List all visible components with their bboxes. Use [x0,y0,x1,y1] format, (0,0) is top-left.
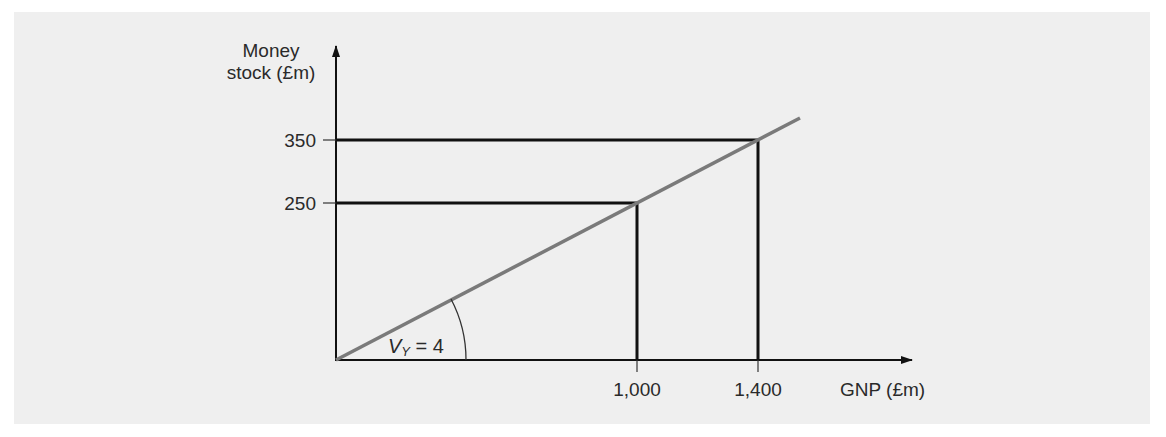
x-axis-label: GNP (£m) [840,380,925,399]
x-tick-label-1000: 1,000 [597,380,677,399]
y-axis-label: Money stock (£m) [214,40,328,84]
velocity-annotation: VY = 4 [388,336,444,358]
y-axis-label-line2: stock (£m) [214,62,328,84]
velocity-value: = 4 [410,335,444,357]
velocity-symbol: V [388,335,401,357]
x-tick-label-1400: 1,400 [718,380,798,399]
velocity-subscript: Y [401,344,410,359]
chart-plot [0,0,1166,437]
y-axis-label-line1: Money [214,40,328,62]
y-tick-label-350: 350 [256,131,316,150]
angle-arc [451,299,466,360]
y-tick-label-250: 250 [256,194,316,213]
velocity-line [336,118,800,360]
